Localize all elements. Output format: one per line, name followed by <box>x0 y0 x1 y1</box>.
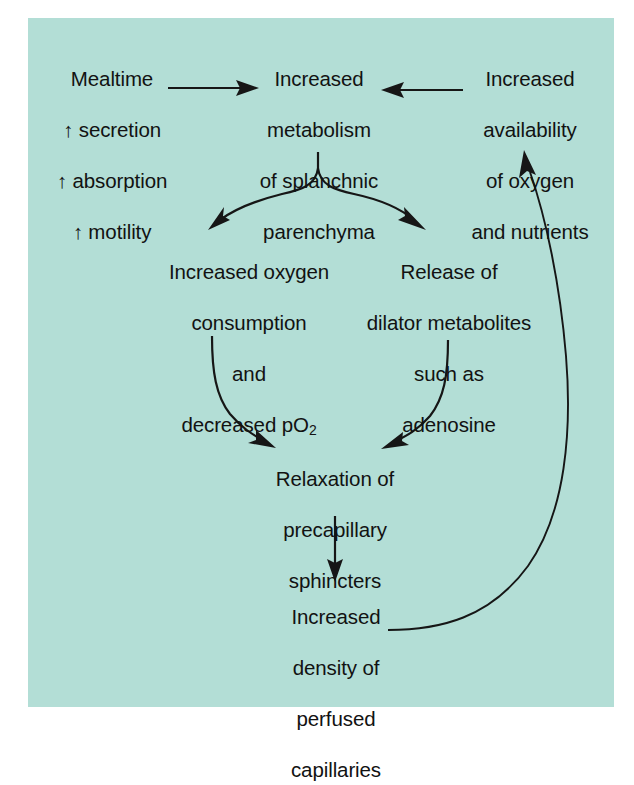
node-increased-oxygen-consumption-line-2: consumption <box>140 310 358 336</box>
node-increased-metabolism-line-3: of splanchnic <box>240 168 398 194</box>
node-release-of-dilator-metabolites-line-1: Release of <box>340 259 558 285</box>
node-increased-oxygen-consumption: Increased oxygen consumption and decreas… <box>140 233 358 463</box>
node-release-of-dilator-metabolites-line-2: dilator metabolites <box>340 310 558 336</box>
po2-subscript: 2 <box>309 422 317 438</box>
node-release-of-dilator-metabolites-line-4: adenosine <box>340 412 558 438</box>
node-release-of-dilator-metabolites: Release of dilator metabolites such as a… <box>340 233 558 463</box>
po2-prefix: decreased pO <box>181 413 309 436</box>
node-increased-metabolism-line-2: metabolism <box>240 117 398 143</box>
node-increased-oxygen-consumption-line-1: Increased oxygen <box>140 259 358 285</box>
node-increased-oxygen-consumption-line-4: decreased pO2 <box>140 412 358 438</box>
node-mealtime-line-2: ↑ secretion <box>44 117 180 143</box>
node-increased-metabolism-line-1: Increased <box>240 66 398 92</box>
node-mealtime-line-3: ↑ absorption <box>44 168 180 194</box>
node-increased-density-of-perfused-capillaries: Increased density of perfused capillarie… <box>246 578 426 785</box>
node-density-line-1: Increased <box>246 604 426 630</box>
node-increased-availability-line-3: of oxygen <box>452 168 608 194</box>
node-relaxation-line-2: precapillary <box>243 517 427 543</box>
node-mealtime-line-1: Mealtime <box>44 66 180 92</box>
node-increased-availability-line-1: Increased <box>452 66 608 92</box>
node-increased-oxygen-consumption-line-3: and <box>140 361 358 387</box>
node-density-line-2: density of <box>246 655 426 681</box>
node-relaxation-line-1: Relaxation of <box>243 466 427 492</box>
node-increased-availability-line-2: availability <box>452 117 608 143</box>
node-release-of-dilator-metabolites-line-3: such as <box>340 361 558 387</box>
node-density-line-3: perfused <box>246 706 426 732</box>
node-density-line-4: capillaries <box>246 757 426 783</box>
